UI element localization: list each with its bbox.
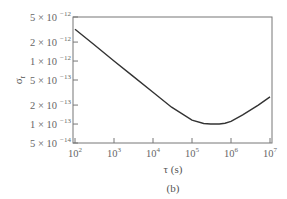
- svg-text:σr: σr: [12, 75, 27, 84]
- y-tick-label: 5 × 10−14: [30, 136, 71, 149]
- y-axis-ticks: 5 × 10−122 × 10−121 × 10−125 × 10−132 × …: [30, 10, 78, 149]
- x-tick-label: 103: [107, 146, 122, 159]
- plot-frame: [73, 17, 272, 143]
- x-axis-ticks: 102103104105106107: [68, 138, 278, 159]
- x-tick-label: 107: [263, 146, 278, 159]
- y-axis-label: σr: [12, 75, 27, 84]
- x-tick-label: 105: [185, 146, 200, 159]
- chart: 102103104105106107 5 × 10−122 × 10−121 ×…: [0, 0, 287, 199]
- data-series-line: [75, 29, 270, 124]
- y-tick-label: 5 × 10−13: [30, 73, 71, 86]
- y-tick-label: 1 × 10−12: [30, 54, 71, 67]
- x-tick-label: 102: [68, 146, 83, 159]
- x-tick-label: 104: [146, 146, 161, 159]
- y-tick-label: 2 × 10−12: [30, 35, 71, 48]
- figure-caption: (b): [167, 182, 180, 195]
- y-tick-label: 1 × 10−13: [30, 117, 71, 130]
- x-axis-label: τ (s): [164, 163, 183, 176]
- x-tick-label: 106: [224, 146, 239, 159]
- y-tick-label: 2 × 10−13: [30, 98, 71, 111]
- y-tick-label: 5 × 10−12: [30, 10, 71, 23]
